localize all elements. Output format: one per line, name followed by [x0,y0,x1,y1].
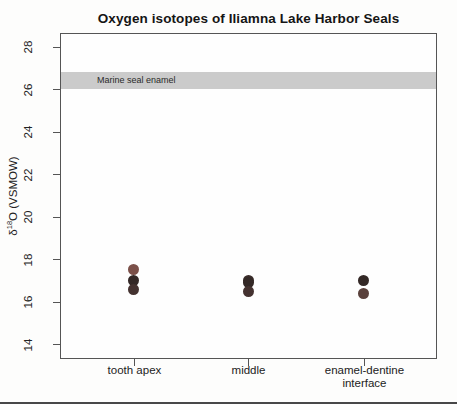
y-tick-label: 24 [22,126,34,139]
data-point [128,264,139,275]
data-point [243,286,254,297]
x-category-label: enamel-dentine interface [309,364,419,390]
band-label: Marine seal enamel [97,75,176,85]
plot-area: Marine seal enamel [60,33,437,359]
y-axis-title-superscript: 18 [5,221,14,229]
y-tick-label: 14 [22,338,34,351]
y-tick-label: 20 [22,211,34,224]
data-point [358,288,369,299]
y-tick-label: 16 [22,296,34,309]
x-category-label: middle [194,364,304,377]
y-tick [53,132,60,133]
y-tick-label: 28 [22,41,34,54]
y-tick [53,302,60,303]
y-tick-label: 18 [22,253,34,266]
y-axis-title-text: O (VSMOW) [7,156,19,221]
y-tick-label: 26 [22,83,34,96]
y-tick [53,47,60,48]
y-tick [53,174,60,175]
y-tick-label: 22 [22,168,34,181]
chart-title: Oxygen isotopes of Iliamna Lake Harbor S… [60,11,437,26]
y-tick [53,89,60,90]
bottom-page-rule [0,402,457,404]
y-tick [53,259,60,260]
x-category-label: tooth apex [79,364,189,377]
y-axis-title: δ18O (VSMOW) [5,156,19,235]
data-point [128,284,139,295]
y-axis-title-delta: δ [7,229,19,235]
data-point [358,275,369,286]
figure: Oxygen isotopes of Iliamna Lake Harbor S… [0,0,457,410]
y-tick [53,217,60,218]
y-tick [53,344,60,345]
